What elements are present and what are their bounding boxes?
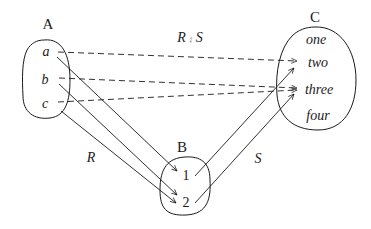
r-arrow-a-1 [57,57,177,171]
element-two: two [308,56,328,70]
r-arrow-b-2 [59,84,177,195]
composition-arrow-a-two [58,52,297,61]
set-b-title: B [177,140,187,155]
composition-arrow-b-three [59,78,297,88]
element-three: three [305,83,333,97]
set-c-title: C [310,10,320,25]
r-arrow-c-2 [61,111,176,203]
element-four: four [306,109,329,123]
composition-label: R ⨾ S [177,31,203,45]
element-a: a [43,45,50,59]
s-arrow-2-three [195,94,294,203]
relation-composition-diagram: A B C a b c 1 2 one two three four R ⨾ S… [0,0,371,229]
element-2: 2 [183,196,190,210]
element-c: c [42,97,48,111]
element-1: 1 [183,169,190,183]
relation-s-label: S [255,152,262,166]
set-a-title: A [43,17,54,32]
relation-r-label: R [87,151,96,165]
element-one: one [306,33,326,47]
element-b: b [42,73,49,87]
